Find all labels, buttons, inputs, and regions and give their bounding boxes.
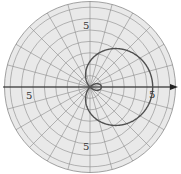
tick-label-right: 5 xyxy=(149,89,155,100)
tick-label-left: 5 xyxy=(26,90,32,101)
tick-label-bottom: 5 xyxy=(83,141,89,152)
polar-plot: 5 5 5 5 xyxy=(0,0,181,174)
tick-label-top: 5 xyxy=(83,20,89,31)
